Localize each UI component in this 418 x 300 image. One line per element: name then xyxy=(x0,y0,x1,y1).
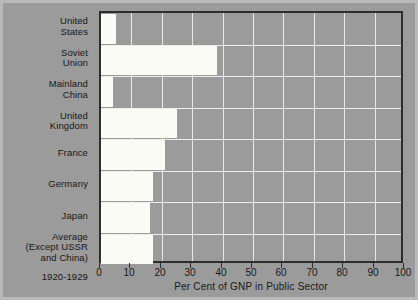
category-label-line: Union xyxy=(0,58,88,69)
plot-inner xyxy=(101,13,401,261)
category-label-line: Kingdom xyxy=(0,121,88,132)
category-label: UnitedKingdom xyxy=(0,111,88,132)
tick-label-0: 0 xyxy=(84,267,114,278)
x-axis-tick-labels: 0102030405060708090100 xyxy=(99,267,403,281)
category-label: France xyxy=(0,148,88,159)
bar xyxy=(101,203,150,233)
category-label: Average(Except USSRand China) xyxy=(0,232,88,264)
category-label-line: and China) xyxy=(0,253,88,264)
category-label-line: France xyxy=(0,148,88,159)
category-label: Germany xyxy=(0,179,88,190)
category-label: UnitedStates xyxy=(0,16,88,37)
gridline-60 xyxy=(283,13,284,261)
tick-label-70: 70 xyxy=(297,267,327,278)
category-label-line: China xyxy=(0,90,88,101)
tick-label-100: 100 xyxy=(388,267,418,278)
bar xyxy=(101,14,116,44)
chart-frame: UnitedStatesSovietUnionMainlandChinaUnit… xyxy=(0,0,418,300)
gridline-40 xyxy=(223,13,224,261)
x-axis-title: Per Cent of GNP in Public Sector xyxy=(99,281,403,292)
gridline-50 xyxy=(253,13,254,261)
plot-area xyxy=(99,11,403,263)
category-label: MainlandChina xyxy=(0,79,88,100)
bar xyxy=(101,235,153,265)
row-separator xyxy=(101,76,401,77)
category-label: Japan xyxy=(0,211,88,222)
period-annotation: 1920-1929 xyxy=(3,271,94,282)
gridline-70 xyxy=(314,13,315,261)
category-label-line: States xyxy=(0,27,88,38)
bar xyxy=(101,172,153,202)
tick-label-80: 80 xyxy=(327,267,357,278)
gridline-80 xyxy=(344,13,345,261)
category-label-line: Germany xyxy=(0,179,88,190)
category-label-line: (Except USSR xyxy=(0,242,88,253)
tick-label-90: 90 xyxy=(358,267,388,278)
category-label: SovietUnion xyxy=(0,48,88,69)
tick-label-30: 30 xyxy=(175,267,205,278)
tick-label-20: 20 xyxy=(145,267,175,278)
tick-label-10: 10 xyxy=(114,267,144,278)
bar xyxy=(101,46,217,76)
gridline-90 xyxy=(375,13,376,261)
bar xyxy=(101,109,177,139)
bar xyxy=(101,77,113,107)
category-label-line: Japan xyxy=(0,211,88,222)
category-label-column: UnitedStatesSovietUnionMainlandChinaUnit… xyxy=(3,11,94,263)
tick-label-60: 60 xyxy=(266,267,296,278)
tick-label-40: 40 xyxy=(206,267,236,278)
tick-label-50: 50 xyxy=(236,267,266,278)
bar xyxy=(101,140,165,170)
